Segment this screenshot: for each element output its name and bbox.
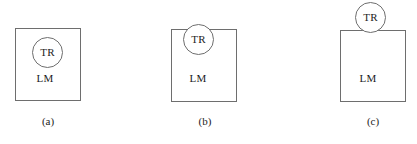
circle-label-c: TR [355, 11, 386, 23]
panel-caption-c: (c) [353, 115, 393, 127]
square-label-a: LM [24, 72, 66, 84]
square-shape-c [340, 30, 406, 102]
circle-label-b: TR [183, 33, 214, 45]
figure-container: TR LM (a) TR LM (b) TR LM (c) [0, 0, 417, 144]
square-label-b: LM [177, 72, 219, 84]
square-label-c: LM [347, 72, 389, 84]
panel-caption-a: (a) [28, 115, 68, 127]
circle-label-a: TR [32, 46, 63, 58]
panel-caption-b: (b) [185, 115, 225, 127]
